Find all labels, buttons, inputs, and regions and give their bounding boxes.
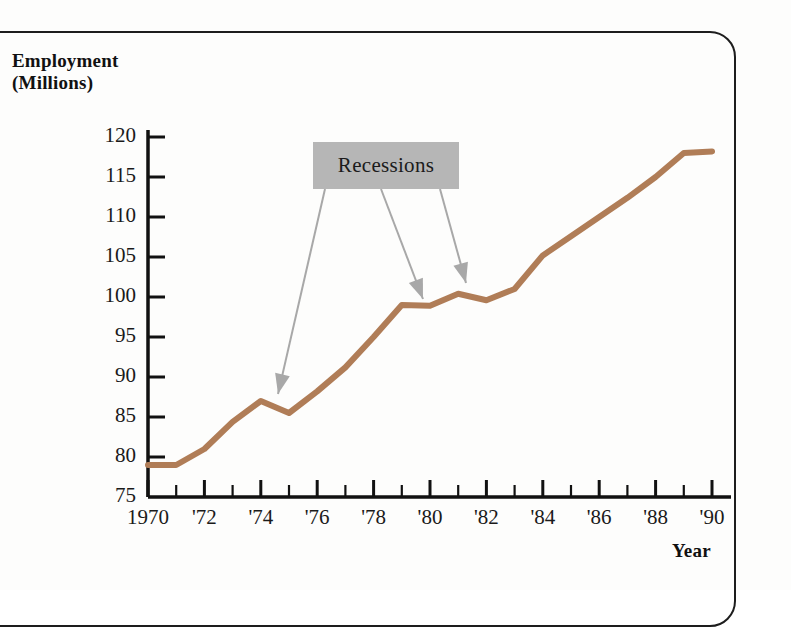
recession-arrow-head — [453, 262, 467, 283]
y-axis-tick-label: 120 — [82, 123, 136, 148]
recession-arrow-head — [275, 373, 290, 394]
y-axis-tick-label: 95 — [82, 323, 136, 348]
y-axis-tick-label: 110 — [82, 203, 136, 228]
y-axis-tick-label: 100 — [82, 283, 136, 308]
data-series-employment — [148, 151, 712, 465]
y-axis-ticks — [148, 137, 165, 457]
y-axis-tick-label: 85 — [82, 403, 136, 428]
y-axis-tick-label: 115 — [82, 163, 136, 188]
recessions-annotation-box: Recessions — [313, 142, 459, 189]
recessions-annotation-label: Recessions — [338, 153, 434, 178]
x-axis-tick-label: '90 — [677, 505, 747, 530]
x-axis-ticks — [148, 480, 712, 497]
recession-arrow-line — [278, 189, 325, 394]
y-axis-tick-label: 105 — [82, 243, 136, 268]
recession-arrows — [275, 189, 468, 394]
employment-line — [148, 151, 712, 465]
y-axis-tick-label: 80 — [82, 443, 136, 468]
y-axis-tick-label: 90 — [82, 363, 136, 388]
recession-arrow-head — [409, 278, 423, 299]
